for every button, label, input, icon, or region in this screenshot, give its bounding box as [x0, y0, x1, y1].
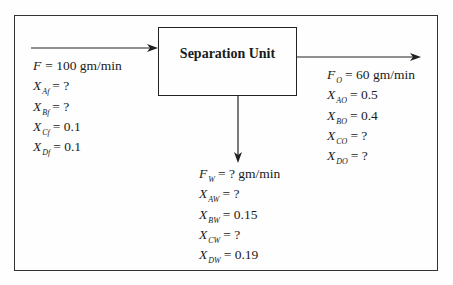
var-subscript: CO: [336, 137, 347, 146]
var-value: = ?: [52, 78, 69, 93]
waste-xb: XBW= 0.15: [199, 205, 280, 225]
feed-arrow: [31, 44, 158, 52]
var-symbol: X: [33, 139, 41, 154]
overhead-xb: XBO= 0.4: [327, 106, 415, 126]
var-symbol: X: [199, 207, 207, 222]
var-value: = 0.15: [223, 207, 258, 222]
overhead-xd: XDO= ?: [327, 146, 415, 166]
var-value: = ?: [223, 227, 240, 242]
var-value: = 100 gm/min: [45, 58, 122, 73]
var-subscript: CW: [208, 236, 220, 245]
waste-xc: XCW= ?: [199, 225, 280, 245]
var-symbol: F: [327, 67, 335, 82]
var-value: = ?: [223, 186, 240, 201]
var-symbol: X: [327, 108, 335, 123]
var-subscript: AO: [336, 96, 347, 105]
var-value: = ?: [52, 99, 69, 114]
var-value: = 0.19: [224, 247, 259, 262]
separation-unit-box: Separation Unit: [158, 27, 297, 96]
feed-xd: XDf= 0.1: [33, 137, 122, 157]
overhead-arrow: [297, 53, 421, 61]
var-value: = 0.1: [53, 119, 81, 134]
overhead-xa: XAO= 0.5: [327, 85, 415, 105]
feed-stream-labels: F= 100 gm/min XAf= ? XBf= ? XCf= 0.1 XDf…: [33, 56, 122, 157]
var-symbol: X: [327, 87, 335, 102]
overhead-flow-rate: FO= 60 gm/min: [327, 65, 415, 85]
feed-xb: XBf= ?: [33, 97, 122, 117]
waste-xd: XDW= 0.19: [199, 245, 280, 265]
var-subscript: DO: [336, 157, 348, 166]
overhead-xc: XCO= ?: [327, 126, 415, 146]
var-symbol: X: [199, 247, 207, 262]
feed-flow-rate: F= 100 gm/min: [33, 56, 122, 76]
var-value: = ? gm/min: [218, 166, 280, 181]
feed-xc: XCf= 0.1: [33, 117, 122, 137]
var-symbol: X: [327, 128, 335, 143]
var-subscript: Df: [42, 148, 50, 157]
feed-xa: XAf= ?: [33, 76, 122, 96]
var-symbol: F: [33, 58, 41, 73]
var-subscript: Cf: [42, 128, 50, 137]
var-symbol: X: [33, 78, 41, 93]
var-subscript: W: [208, 175, 215, 184]
waste-flow-rate: FW= ? gm/min: [199, 164, 280, 184]
var-value: = 60 gm/min: [345, 67, 415, 82]
var-subscript: Af: [42, 87, 49, 96]
var-value: = ?: [351, 148, 368, 163]
var-value: = ?: [350, 128, 367, 143]
var-symbol: X: [33, 119, 41, 134]
var-symbol: X: [33, 99, 41, 114]
waste-arrow: [234, 96, 242, 163]
var-symbol: F: [199, 166, 207, 181]
var-subscript: Bf: [42, 108, 49, 117]
waste-stream-labels: FW= ? gm/min XAW= ? XBW= 0.15 XCW= ? XDW…: [199, 164, 280, 265]
var-subscript: DW: [208, 256, 220, 265]
overhead-stream-labels: FO= 60 gm/min XAO= 0.5 XBO= 0.4 XCO= ? X…: [327, 65, 415, 166]
unit-label: Separation Unit: [180, 46, 275, 62]
var-value: = 0.5: [350, 87, 378, 102]
var-symbol: X: [199, 227, 207, 242]
var-subscript: O: [336, 76, 342, 85]
var-symbol: X: [199, 186, 207, 201]
var-subscript: BO: [336, 117, 347, 126]
var-value: = 0.4: [350, 108, 378, 123]
var-subscript: AW: [208, 195, 219, 204]
var-symbol: X: [327, 148, 335, 163]
var-value: = 0.1: [53, 139, 81, 154]
var-subscript: BW: [208, 216, 220, 225]
waste-xa: XAW= ?: [199, 184, 280, 204]
